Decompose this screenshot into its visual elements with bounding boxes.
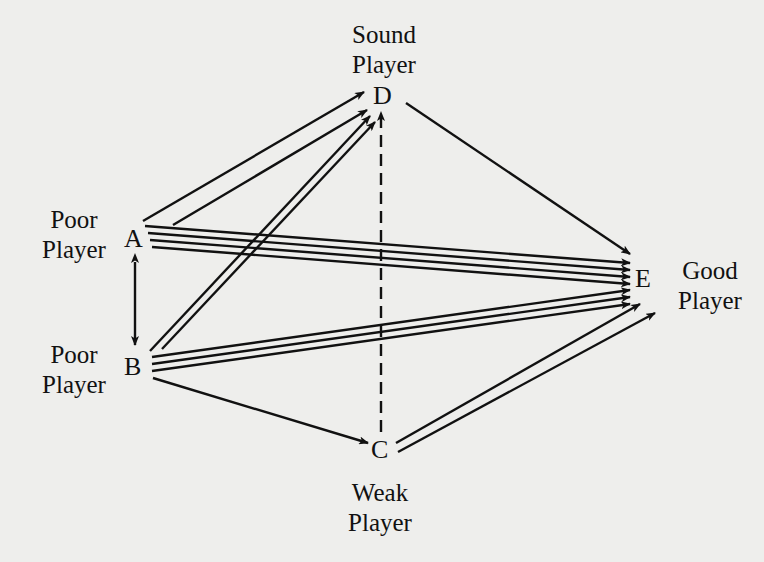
edge-a-to-e: [145, 226, 630, 284]
node-c: C: [371, 436, 388, 464]
label-c-line1: Weak: [330, 478, 430, 508]
edge-b-to-c: [153, 378, 368, 443]
label-b-line2: Player: [26, 370, 122, 400]
label-a: Poor Player: [26, 205, 122, 265]
label-a-line1: Poor: [26, 205, 122, 235]
node-a: A: [124, 225, 143, 253]
label-e-line1: Good: [660, 256, 760, 286]
edge-a-to-d: [143, 92, 367, 225]
label-d-line2: Player: [334, 50, 434, 80]
label-b-line1: Poor: [26, 340, 122, 370]
label-e: Good Player: [660, 256, 760, 316]
edge-b-to-e: [152, 290, 630, 371]
label-b: Poor Player: [26, 340, 122, 400]
edge-d-to-e: [406, 103, 630, 254]
label-d: Sound Player: [334, 20, 434, 80]
label-e-line2: Player: [660, 286, 760, 316]
label-a-line2: Player: [26, 235, 122, 265]
edge-c-to-e: [396, 304, 655, 452]
label-d-line1: Sound: [334, 20, 434, 50]
node-b: B: [124, 353, 141, 381]
node-d: D: [373, 82, 392, 110]
label-c: Weak Player: [330, 478, 430, 538]
label-c-line2: Player: [330, 508, 430, 538]
node-e: E: [635, 265, 651, 293]
